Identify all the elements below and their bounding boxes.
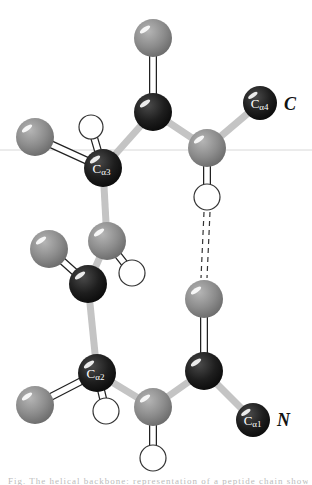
hydrogen-bond-dash — [201, 212, 204, 278]
atom-c-mid — [69, 265, 107, 303]
atom-r2 — [16, 386, 54, 424]
atom-c-right — [185, 352, 223, 390]
c-terminus-label: C — [284, 94, 297, 114]
atom-c-top — [134, 93, 172, 131]
atom-ca3: Cα3 — [84, 149, 122, 187]
atom-ca1: Cα1 — [236, 403, 270, 437]
atom-h-mid — [119, 260, 145, 286]
hydrogen-bond-dash — [207, 212, 210, 278]
atom-o-top — [134, 19, 172, 57]
n-terminus-label: N — [276, 410, 291, 430]
atom-h-low — [140, 445, 166, 471]
figure-caption: Fig. The helical backbone: representatio… — [8, 476, 308, 485]
atom-o-left — [30, 230, 68, 268]
atom-n-low — [134, 388, 172, 426]
atom-ca4: Cα4 — [243, 86, 277, 120]
terminus-label-layer: CN — [276, 94, 297, 430]
atom-r3 — [16, 118, 54, 156]
atom-ca2: Cα2 — [78, 354, 116, 392]
atom-o-right — [185, 280, 223, 318]
hydrogen-bond-layer — [201, 212, 210, 278]
peptide-ball-and-stick-diagram: Cα4Cα3Cα2Cα1 CN — [0, 0, 312, 485]
atom-n-mid — [88, 222, 126, 260]
atom-h2 — [93, 398, 119, 424]
atom-n-upper — [188, 129, 226, 167]
atom-h3 — [79, 115, 103, 139]
atom-h-upper — [194, 184, 220, 210]
